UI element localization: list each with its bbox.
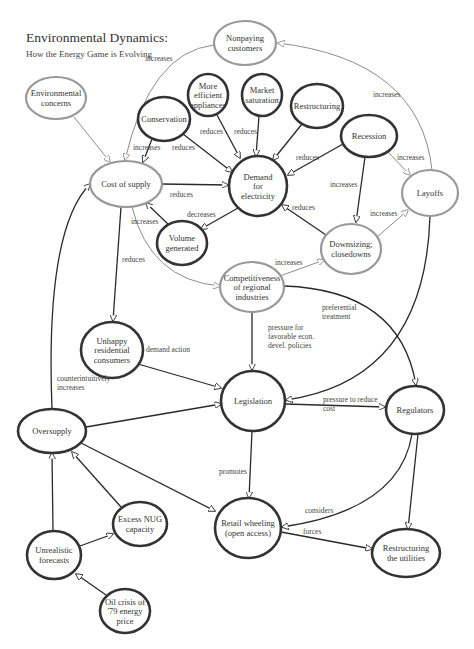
node-efficient: Moreefficientappliances — [188, 74, 228, 116]
edge-label-conservation-cost: increases — [133, 143, 161, 152]
node-label: Restructuring — [294, 101, 341, 111]
edge-label-downsizing-demand: reduces — [292, 203, 315, 212]
edge-label-competitive-legislation: pressure forfavorable econ.devel. polici… — [268, 323, 314, 350]
node-unhappy: Unhappyresidentialconsumers — [81, 322, 143, 378]
node-volume: Volumegenerated — [157, 221, 207, 265]
node-label: Regulators — [397, 405, 434, 415]
causal-loop-diagram: NonpayingcustomersEnvironmentalconcernsM… — [0, 0, 474, 649]
node-restructuring_util: Restructuringthe utilities — [372, 529, 440, 577]
edge-label-retail-restructuring: forces — [303, 527, 321, 536]
node-nug: Excess NUGcapacity — [113, 502, 167, 546]
edge-label-oversupply-cost: counterintuitivelyincreases — [57, 374, 111, 392]
edge-forecasts-nug — [80, 534, 113, 546]
edge-label-demand-volume: decreases — [187, 210, 216, 219]
node-downsizing: Downsizing;closedowns — [321, 224, 381, 274]
node-recession: Recession — [341, 115, 397, 157]
edge-unhappy-legislation — [138, 364, 221, 388]
node-label: Layoffs — [417, 188, 443, 198]
node-oversupply: Oversupply — [18, 409, 86, 453]
nodes-layer: NonpayingcustomersEnvironmentalconcernsM… — [18, 21, 458, 633]
edge-label-competitive-downsizing: increases — [275, 258, 303, 267]
edge-label-competitive-regulators: preferentialtreatment — [322, 303, 357, 321]
edge-label-nonpaying-cost: increases — [145, 54, 173, 63]
edge-label-layoffs-nonpaying: increases — [373, 90, 401, 99]
node-env: Environmentalconcerns — [26, 77, 86, 119]
edge-env-cost — [74, 117, 110, 162]
edge-label-recession-layoffs: increases — [397, 153, 425, 162]
edge-label-recession-demand: reduces — [296, 153, 319, 162]
node-demand: Demandforelectricity — [229, 156, 287, 216]
node-forecasts: Unrealisticforecasts — [27, 531, 81, 579]
edge-oversupply-legislation — [86, 404, 221, 427]
edge-label-downsizing-layoffs: increases — [370, 209, 398, 218]
edge-regulators-retail — [282, 434, 412, 527]
node-label: Retail wheeling(open access) — [221, 518, 275, 538]
node-nonpaying: Nonpayingcustomers — [214, 21, 276, 65]
node-restructuring: Restructuring — [291, 84, 343, 128]
node-label: Legislation — [234, 396, 273, 406]
node-retail: Retail wheeling(open access) — [215, 498, 281, 558]
edge-label-regulators-retail: considers — [305, 506, 333, 515]
node-label: Restructuringthe utilities — [383, 543, 430, 563]
edge-label-cost-unhappy: reduces — [122, 255, 145, 264]
node-label: Nonpayingcustomers — [226, 33, 265, 53]
node-label: Unhappyresidentialconsumers — [94, 336, 131, 365]
edge-cost-unhappy — [113, 207, 121, 321]
node-regulators: Regulators — [386, 386, 444, 434]
edge-forecasts-oversupply — [52, 453, 53, 531]
node-label: Recession — [352, 131, 387, 141]
edge-label-recession-downsizing: increases — [330, 180, 358, 189]
node-label: Volumegenerated — [165, 233, 199, 253]
edge-oilcrisis-forecasts — [76, 574, 106, 595]
node-cost: Cost of supply — [90, 161, 162, 207]
node-label: Cost of supply — [101, 179, 151, 189]
edge-cost-demand — [162, 184, 228, 185]
edge-label-market-demand: reduces — [234, 127, 257, 136]
edge-label-cost-demand: reduces — [170, 190, 193, 199]
node-conservation: Conservation — [138, 97, 190, 141]
edge-label-conservation-demand: reduces — [172, 143, 195, 152]
node-layoffs: Layoffs — [402, 170, 458, 216]
edge-label-efficient-demand: reduces — [200, 127, 223, 136]
edge-oversupply-retail — [81, 443, 215, 511]
node-market: Marketsaturation — [242, 74, 282, 116]
edge-conservation-demand — [183, 134, 232, 172]
edge-label-legislation-retail: promotes — [219, 467, 247, 476]
node-label: Oversupply — [32, 426, 72, 436]
node-oilcrisis: Oil crisis of'79 energyprice — [100, 589, 150, 633]
node-legislation: Legislation — [221, 371, 285, 431]
edge-retail-restructuring — [281, 532, 372, 549]
node-label: Conservation — [141, 114, 187, 124]
node-label: Downsizing;closedowns — [329, 239, 372, 259]
node-label: Unrealisticforecasts — [35, 545, 73, 565]
node-competitive: Competitivenessof regionalindustries — [220, 262, 284, 312]
edge-legislation-retail — [249, 431, 252, 498]
edge-label-legislation-regulators: pressure to reducecost — [323, 395, 378, 413]
edge-label-volume-cost: increases — [131, 217, 159, 226]
edge-label-unhappy-legislation: demand action — [146, 345, 190, 354]
edge-regulators-restructuring — [408, 434, 418, 529]
edge-recession-downsizing — [356, 157, 365, 222]
edge-efficient-demand — [217, 115, 240, 158]
edge-market-demand — [256, 116, 259, 156]
